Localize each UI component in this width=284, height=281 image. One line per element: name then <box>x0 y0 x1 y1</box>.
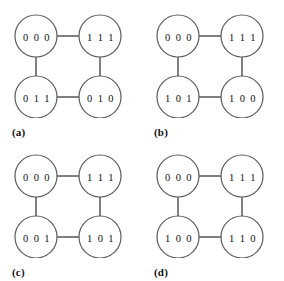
panel-a: 0 0 0 1 1 1 0 1 1 0 1 0 (a) <box>0 0 142 140</box>
node-label-bottom-left: 0 1 1 <box>23 93 51 104</box>
node-label-bottom-right: 1 0 1 <box>87 233 115 244</box>
node-label-bottom-right: 1 1 0 <box>229 233 257 244</box>
node-label-top-left: 0 0 0 <box>165 172 193 183</box>
node-label-bottom-left: 0 0 1 <box>23 233 51 244</box>
node-label-top-left: 0 0 0 <box>23 172 51 183</box>
panel-b: 0 0 0 1 1 1 1 0 1 1 0 0 (b) <box>142 0 284 140</box>
panel-d-graph: 0 0 0 1 1 1 1 0 0 1 1 0 <box>142 140 284 258</box>
panel-b-caption: (b) <box>154 126 168 138</box>
node-label-bottom-right: 1 0 0 <box>229 93 257 104</box>
panel-c: 0 0 0 1 1 1 0 0 1 1 0 1 (c) <box>0 140 142 280</box>
panel-a-caption: (a) <box>12 126 25 138</box>
node-label-bottom-left: 1 0 0 <box>165 233 193 244</box>
panel-d: 0 0 0 1 1 1 1 0 0 1 1 0 (d) <box>142 140 284 280</box>
panel-c-graph: 0 0 0 1 1 1 0 0 1 1 0 1 <box>0 140 142 258</box>
figure-root: 0 0 0 1 1 1 0 1 1 0 1 0 (a) 0 0 0 1 1 1 … <box>0 0 284 281</box>
node-label-top-right: 1 1 1 <box>87 32 115 43</box>
node-label-top-left: 0 0 0 <box>23 32 51 43</box>
node-label-top-right: 1 1 1 <box>229 172 257 183</box>
node-label-bottom-right: 0 1 0 <box>87 93 115 104</box>
panel-d-caption: (d) <box>154 266 168 278</box>
node-label-top-right: 1 1 1 <box>229 32 257 43</box>
node-label-top-left: 0 0 0 <box>165 32 193 43</box>
panel-a-graph: 0 0 0 1 1 1 0 1 1 0 1 0 <box>0 0 142 118</box>
panel-c-caption: (c) <box>12 266 25 278</box>
node-label-top-right: 1 1 1 <box>87 172 115 183</box>
node-label-bottom-left: 1 0 1 <box>165 93 193 104</box>
panel-b-graph: 0 0 0 1 1 1 1 0 1 1 0 0 <box>142 0 284 118</box>
